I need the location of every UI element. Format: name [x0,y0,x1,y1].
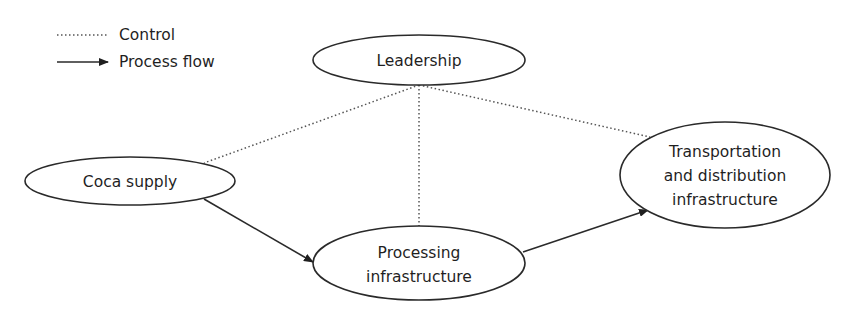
control-edges [204,85,650,226]
flow-edge-coca-supply-processing [204,199,313,262]
flow-edge-processing-transportation [523,210,648,252]
node-processing-infrastructure: Processing infrastructure [313,226,525,300]
node-transportation-distribution-infrastructure: Transportation and distribution infrastr… [620,122,830,228]
diagram-canvas: Control Process flow Leadership Coca sup… [0,0,851,319]
processing-ellipse [313,226,525,300]
transportation-label-line-1: Transportation [668,143,781,161]
leadership-label: Leadership [376,52,461,70]
node-coca-supply: Coca supply [25,157,235,205]
coca-supply-label: Coca supply [83,173,177,191]
transportation-label-line-3: infrastructure [672,191,778,209]
legend-control-label: Control [119,26,175,44]
processing-label-line-1: Processing [378,244,461,262]
legend-process-flow-label: Process flow [119,53,215,71]
control-edge-leadership-coca-supply [204,85,419,163]
processing-label-line-2: infrastructure [366,268,472,286]
legend: Control Process flow [57,26,215,71]
control-edge-leadership-transportation [419,85,650,137]
transportation-label-line-2: and distribution [664,167,786,185]
node-leadership: Leadership [313,35,525,85]
